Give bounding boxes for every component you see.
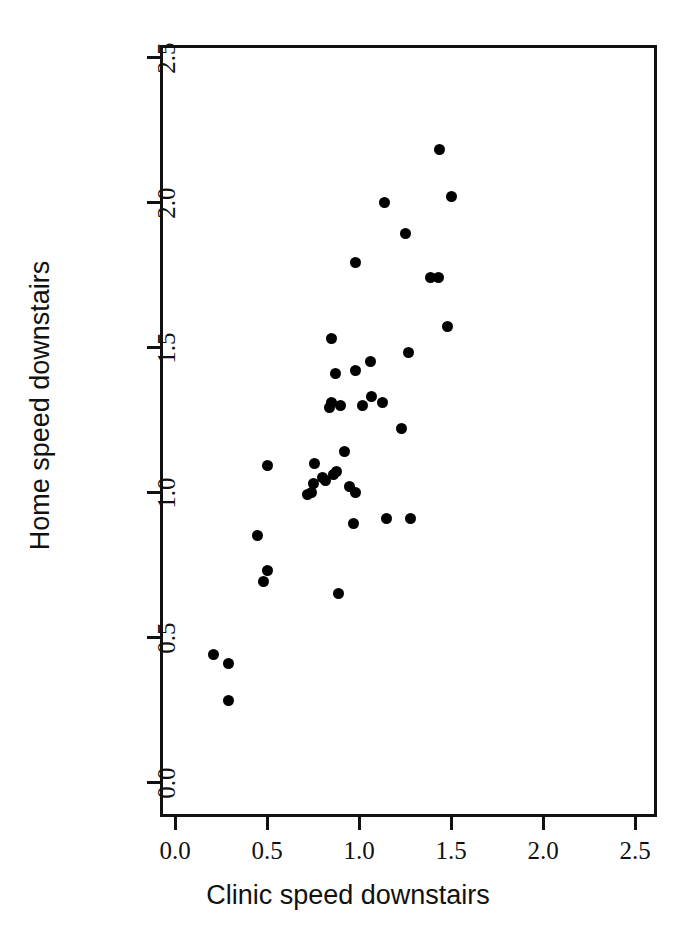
data-point <box>208 649 219 660</box>
data-point <box>400 228 411 239</box>
x-axis-tick-label: 2.5 <box>619 837 650 865</box>
data-point <box>357 400 368 411</box>
data-point <box>405 513 416 524</box>
data-point <box>339 446 350 457</box>
data-point <box>433 272 444 283</box>
y-axis-tick-label: 2.5 <box>153 42 181 73</box>
x-axis-tick <box>450 817 453 830</box>
x-axis-tick <box>266 817 269 830</box>
y-axis-tick-label: 0.0 <box>153 767 181 798</box>
data-point <box>396 423 407 434</box>
data-point <box>258 576 269 587</box>
data-point <box>326 333 337 344</box>
data-point <box>333 588 344 599</box>
x-axis-label: Clinic speed downstairs <box>0 880 696 911</box>
x-axis-tick <box>174 817 177 830</box>
y-axis-tick-label: 1.5 <box>153 332 181 363</box>
data-point <box>309 458 320 469</box>
data-point <box>365 356 376 367</box>
data-point <box>403 347 414 358</box>
data-point <box>350 487 361 498</box>
data-points-layer <box>0 0 696 952</box>
data-point <box>366 391 377 402</box>
y-axis-tick-label: 0.5 <box>153 622 181 653</box>
x-axis-tick-label: 0.0 <box>159 837 190 865</box>
x-axis-tick <box>634 817 637 830</box>
data-point <box>348 518 359 529</box>
x-axis-tick-label: 1.5 <box>435 837 466 865</box>
x-axis-tick <box>358 817 361 830</box>
data-point <box>379 197 390 208</box>
y-axis-tick-label: 1.0 <box>153 477 181 508</box>
data-point <box>335 400 346 411</box>
data-point <box>262 460 273 471</box>
data-point <box>223 658 234 669</box>
y-axis-tick-label: 2.0 <box>153 187 181 218</box>
data-point <box>331 466 342 477</box>
data-point <box>350 257 361 268</box>
data-point <box>223 695 234 706</box>
data-point <box>377 397 388 408</box>
data-point <box>350 365 361 376</box>
scatter-plot-figure: 0.00.51.01.52.02.50.00.51.01.52.02.5 Cli… <box>0 0 696 952</box>
data-point <box>262 565 273 576</box>
x-axis-tick <box>542 817 545 830</box>
data-point <box>434 144 445 155</box>
data-point <box>442 321 453 332</box>
data-point <box>381 513 392 524</box>
data-point <box>446 191 457 202</box>
x-axis-tick-label: 0.5 <box>251 837 282 865</box>
y-axis-label: Home speed downstairs <box>25 196 56 616</box>
x-axis-tick-label: 1.0 <box>343 837 374 865</box>
data-point <box>330 368 341 379</box>
x-axis-tick-label: 2.0 <box>527 837 558 865</box>
data-point <box>252 530 263 541</box>
